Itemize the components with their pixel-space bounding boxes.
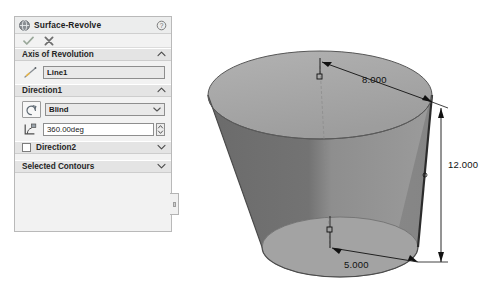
chevron-down-icon[interactable] <box>157 143 166 152</box>
surface-revolve-icon <box>19 20 30 31</box>
panel-empty-area <box>15 173 171 209</box>
axis-selection-row: Line1 <box>22 65 165 80</box>
graphics-viewport[interactable]: 8.000 12.000 5.000 <box>186 0 495 305</box>
height-arrow-bottom <box>438 252 444 262</box>
chevron-up-icon[interactable] <box>157 86 166 95</box>
section-label-direction2: Direction2 <box>36 143 76 152</box>
help-icon[interactable]: ? <box>156 20 167 31</box>
section-header-axis-of-revolution[interactable]: Axis of Revolution <box>15 48 171 61</box>
panel-action-bar <box>15 34 171 48</box>
axis-selection-field[interactable]: Line1 <box>43 66 165 79</box>
height-extension-line-top <box>432 102 448 108</box>
section-label-direction1: Direction1 <box>22 86 62 95</box>
chevron-down-icon[interactable] <box>157 162 166 171</box>
section-body-direction1: Blind 360.00deg <box>15 97 171 141</box>
revolve-angle-spinner[interactable] <box>156 123 165 136</box>
panel-title-bar: Surface-Revolve ? <box>15 17 171 34</box>
section-header-direction1[interactable]: Direction1 <box>15 84 171 97</box>
panel-resize-grip <box>173 202 176 207</box>
top-radius-label[interactable]: 8.000 <box>362 74 387 85</box>
svg-text:?: ? <box>160 22 164 29</box>
axis-line-icon <box>22 65 39 80</box>
section-header-direction2[interactable]: Direction2 <box>15 141 171 154</box>
revolved-surface-model[interactable]: 8.000 12.000 5.000 <box>186 0 495 305</box>
revolve-type-dropdown[interactable]: Blind <box>45 103 165 116</box>
direction2-checkbox[interactable] <box>22 143 31 152</box>
property-manager-panel: Surface-Revolve ? Axis of Revolution <box>14 16 172 232</box>
panel-resize-handle[interactable] <box>170 193 179 215</box>
bottom-radius-label[interactable]: 5.000 <box>344 259 369 270</box>
revolve-angle-input[interactable]: 360.00deg <box>43 123 154 136</box>
section-label-selected-contours: Selected Contours <box>22 162 94 171</box>
revolve-angle-icon <box>22 122 39 137</box>
height-label[interactable]: 12.000 <box>448 159 478 170</box>
page-title: Surface-Revolve <box>34 20 101 30</box>
ok-button[interactable] <box>22 35 35 47</box>
chevron-up-icon[interactable] <box>157 50 166 59</box>
height-arrow-top <box>438 108 444 118</box>
revolve-direction-icon[interactable] <box>22 101 41 118</box>
chevron-down-icon[interactable] <box>153 105 161 114</box>
section-body-axis-of-revolution: Line1 <box>15 61 171 84</box>
revolve-angle-value: 360.00deg <box>47 125 150 134</box>
section-label-axis-of-revolution: Axis of Revolution <box>22 50 94 59</box>
frustum-body <box>208 51 432 277</box>
cancel-button[interactable] <box>42 35 55 47</box>
axis-selection-value: Line1 <box>47 68 161 77</box>
section-header-selected-contours[interactable]: Selected Contours <box>15 160 171 173</box>
revolve-type-row: Blind <box>22 101 165 118</box>
revolve-angle-row: 360.00deg <box>22 122 165 137</box>
revolve-type-value: Blind <box>49 105 151 114</box>
